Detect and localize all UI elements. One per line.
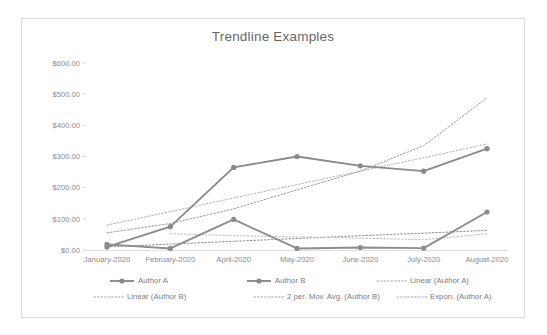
data-point-marker-author-b bbox=[294, 246, 299, 251]
trendline-expon-author-a bbox=[107, 98, 487, 233]
data-point-marker-author-a bbox=[484, 146, 489, 151]
x-axis-tick-label: February-2020 bbox=[145, 255, 195, 264]
y-axis-tick-label: $200.00 bbox=[53, 183, 80, 192]
x-axis-tick-label: January-2020 bbox=[84, 255, 130, 264]
x-axis-tick-label: August-2020 bbox=[465, 255, 508, 264]
x-axis-tick-label: June-2020 bbox=[342, 255, 378, 264]
legend-item[interactable]: Linear (Author A) bbox=[377, 276, 469, 285]
trendlines-group bbox=[107, 98, 487, 247]
data-point-marker-author-a bbox=[168, 224, 173, 229]
legend-swatch-marker bbox=[119, 278, 124, 283]
data-series-group bbox=[104, 146, 489, 251]
data-point-marker-author-b bbox=[104, 242, 109, 247]
x-axis-tick-labels: January-2020February-2020April-2020May-2… bbox=[84, 255, 509, 264]
legend-item[interactable]: Expon. (Author A) bbox=[397, 292, 492, 301]
y-axis-tick-label: $100.00 bbox=[53, 215, 80, 224]
x-axis-tick-label: July-2020 bbox=[407, 255, 440, 264]
legend-item[interactable]: Author B bbox=[247, 276, 305, 285]
chart-legend[interactable]: Author AAuthor BLinear (Author A)Linear … bbox=[94, 276, 492, 301]
data-point-marker-author-b bbox=[484, 209, 489, 214]
y-axis-tick-label: $600.00 bbox=[53, 59, 80, 68]
y-axis-tick-label: $300.00 bbox=[53, 152, 80, 161]
y-axis-tick-label: $400.00 bbox=[53, 121, 80, 130]
data-point-marker-author-a bbox=[231, 165, 236, 170]
legend-item[interactable]: 2 per. Mov. Avg. (Author B) bbox=[254, 292, 380, 301]
legend-label: Author B bbox=[275, 276, 305, 285]
series-line-author-a bbox=[107, 149, 487, 247]
legend-item[interactable]: Linear (Author B) bbox=[94, 292, 187, 301]
data-point-marker-author-a bbox=[421, 169, 426, 174]
legend-swatch-marker bbox=[256, 278, 261, 283]
data-point-marker-author-a bbox=[358, 163, 363, 168]
chart-plot-area: $600.00$500.00$400.00$300.00$200.00$100.… bbox=[22, 19, 526, 319]
series-line-author-b bbox=[107, 212, 487, 248]
legend-label: Linear (Author A) bbox=[410, 276, 469, 285]
y-axis-tick-label: $0.00 bbox=[61, 246, 80, 255]
y-axis-tick-label: $500.00 bbox=[53, 90, 80, 99]
data-point-marker-author-b bbox=[358, 245, 363, 250]
y-axis-tick-marks bbox=[83, 63, 86, 250]
x-axis-tick-label: May-2020 bbox=[280, 255, 314, 264]
data-point-marker-author-a bbox=[294, 154, 299, 159]
chart-container: Trendline Examples $600.00$500.00$400.00… bbox=[21, 18, 525, 318]
legend-label: 2 per. Mov. Avg. (Author B) bbox=[287, 292, 380, 301]
data-point-marker-author-b bbox=[231, 217, 236, 222]
data-point-marker-author-b bbox=[168, 246, 173, 251]
data-point-marker-author-b bbox=[421, 246, 426, 251]
y-axis-tick-labels: $600.00$500.00$400.00$300.00$200.00$100.… bbox=[53, 59, 80, 255]
legend-label: Author A bbox=[138, 276, 169, 285]
x-axis-tick-label: April-2020 bbox=[216, 255, 251, 264]
legend-label: Linear (Author B) bbox=[127, 292, 187, 301]
legend-label: Expon. (Author A) bbox=[430, 292, 492, 301]
legend-item[interactable]: Author A bbox=[110, 276, 169, 285]
